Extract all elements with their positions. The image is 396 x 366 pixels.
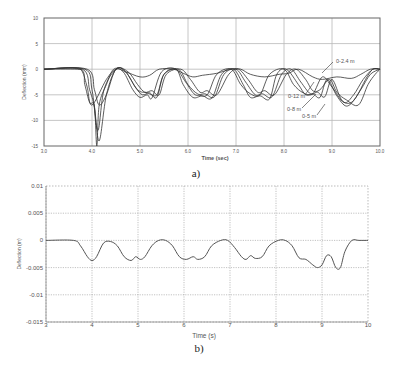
x-axis-ticks: 3.04.05.06.07.08.09.010.0: [41, 149, 385, 154]
x-tick-label: 10.0: [376, 149, 385, 154]
x-tick-label: 7.0: [233, 149, 240, 154]
y-tick-label: -15: [31, 144, 38, 149]
y-tick-label: 5: [35, 42, 38, 47]
x-tick-label: 10: [365, 322, 372, 328]
y-tick-label: -5: [34, 93, 38, 98]
series-line: [44, 68, 380, 106]
data-series: [44, 68, 380, 146]
x-tick-label: 4: [90, 322, 94, 328]
x-tick-label: 6.0: [185, 149, 192, 154]
x-tick-label: 5.0: [137, 149, 144, 154]
y-tick-label: 0: [40, 237, 44, 243]
y-axis-label: Deflection (m): [16, 238, 22, 269]
series-annotation-label: 0-5 m: [302, 113, 316, 119]
annotation-leader: [317, 104, 325, 115]
x-tick-label: 9.0: [329, 149, 336, 154]
x-tick-label: 4.0: [89, 149, 96, 154]
x-tick-label: 9: [320, 322, 324, 328]
y-axis-label: Deflection (mm): [21, 64, 27, 100]
y-tick-label: -0.005: [26, 265, 44, 271]
figure: 3.04.05.06.07.08.09.010.0 1050-5-10-15 0…: [0, 0, 396, 366]
chart-panel-a: 3.04.05.06.07.08.09.010.0 1050-5-10-15 0…: [21, 16, 385, 180]
y-tick-label: 0: [35, 67, 38, 72]
y-tick-label: -0.01: [29, 292, 43, 298]
annotation-leader: [322, 62, 333, 73]
y-tick-label: 0.01: [31, 183, 43, 189]
series-annotation-label: 0-12 m: [288, 93, 306, 99]
y-axis-ticks: 1050-5-10-15: [31, 16, 38, 149]
x-tick-label: 8: [274, 322, 278, 328]
x-tick-label: 8.0: [281, 149, 288, 154]
x-tick-label: 5: [136, 322, 140, 328]
x-axis-ticks: 345678910: [44, 322, 372, 328]
x-tick-label: 6: [182, 322, 186, 328]
x-tick-label: 7: [228, 322, 232, 328]
y-tick-label: 10: [33, 16, 39, 21]
x-axis-label: Time (s): [192, 332, 216, 340]
y-tick-label: 0.005: [28, 210, 44, 216]
series-line: [44, 69, 380, 106]
series-annotation-label: 0-2.4 m: [336, 58, 355, 64]
y-tick-label: -10: [31, 118, 38, 123]
series-line: [44, 68, 380, 131]
x-axis-label: Time (sec): [201, 155, 228, 161]
x-tick-label: 3.0: [41, 149, 48, 154]
y-axis-ticks: 0.010.0050-0.005-0.01-0.015: [26, 183, 44, 325]
series-annotation-label: 0-8 m: [287, 106, 301, 112]
data-series: [46, 240, 368, 270]
x-tick-label: 3: [44, 322, 48, 328]
chart-panel-b: 345678910 0.010.0050-0.005-0.01-0.015 Ti…: [16, 183, 372, 355]
y-tick-label: -0.015: [26, 319, 44, 325]
series-line: [46, 240, 368, 270]
panel-caption-b: b): [194, 342, 204, 355]
panel-caption-a: a): [192, 167, 201, 180]
